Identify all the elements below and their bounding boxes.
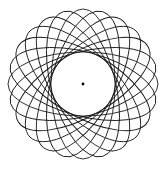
center-dot — [82, 83, 85, 86]
spirograph-figure — [0, 0, 165, 170]
